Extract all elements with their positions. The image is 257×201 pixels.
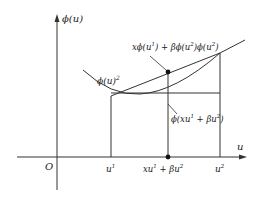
x-axis-label: u [237,141,243,152]
chord-label-leader [150,56,166,70]
value-label: ϕ(xu1 + βu2) [171,113,224,124]
axis-point [166,155,171,160]
y-axis [55,14,60,190]
origin-label: O [45,161,53,172]
y-axis-label: ϕ(u) [62,13,83,24]
x-axis-arrow-icon [239,155,247,160]
tick-label-mid: xu1 + βu2 [143,163,184,174]
curve-label: ϕ(u)2 [97,74,120,86]
value-label-leader [168,104,177,114]
chord-line [111,53,220,96]
tick-label-u2: u2 [215,163,225,174]
x-axis [17,155,247,160]
y-axis-arrow-icon [55,14,60,22]
chord-label: xϕ(u1) + βϕ(u2)ϕ(u2) [132,41,218,52]
tick-label-u1: u1 [106,163,115,174]
chord-point [166,70,171,75]
convexity-diagram: ϕ(u) u O ϕ(u)2 xϕ(u1) + βϕ(u2)ϕ(u2) ϕ(xu… [0,0,257,201]
